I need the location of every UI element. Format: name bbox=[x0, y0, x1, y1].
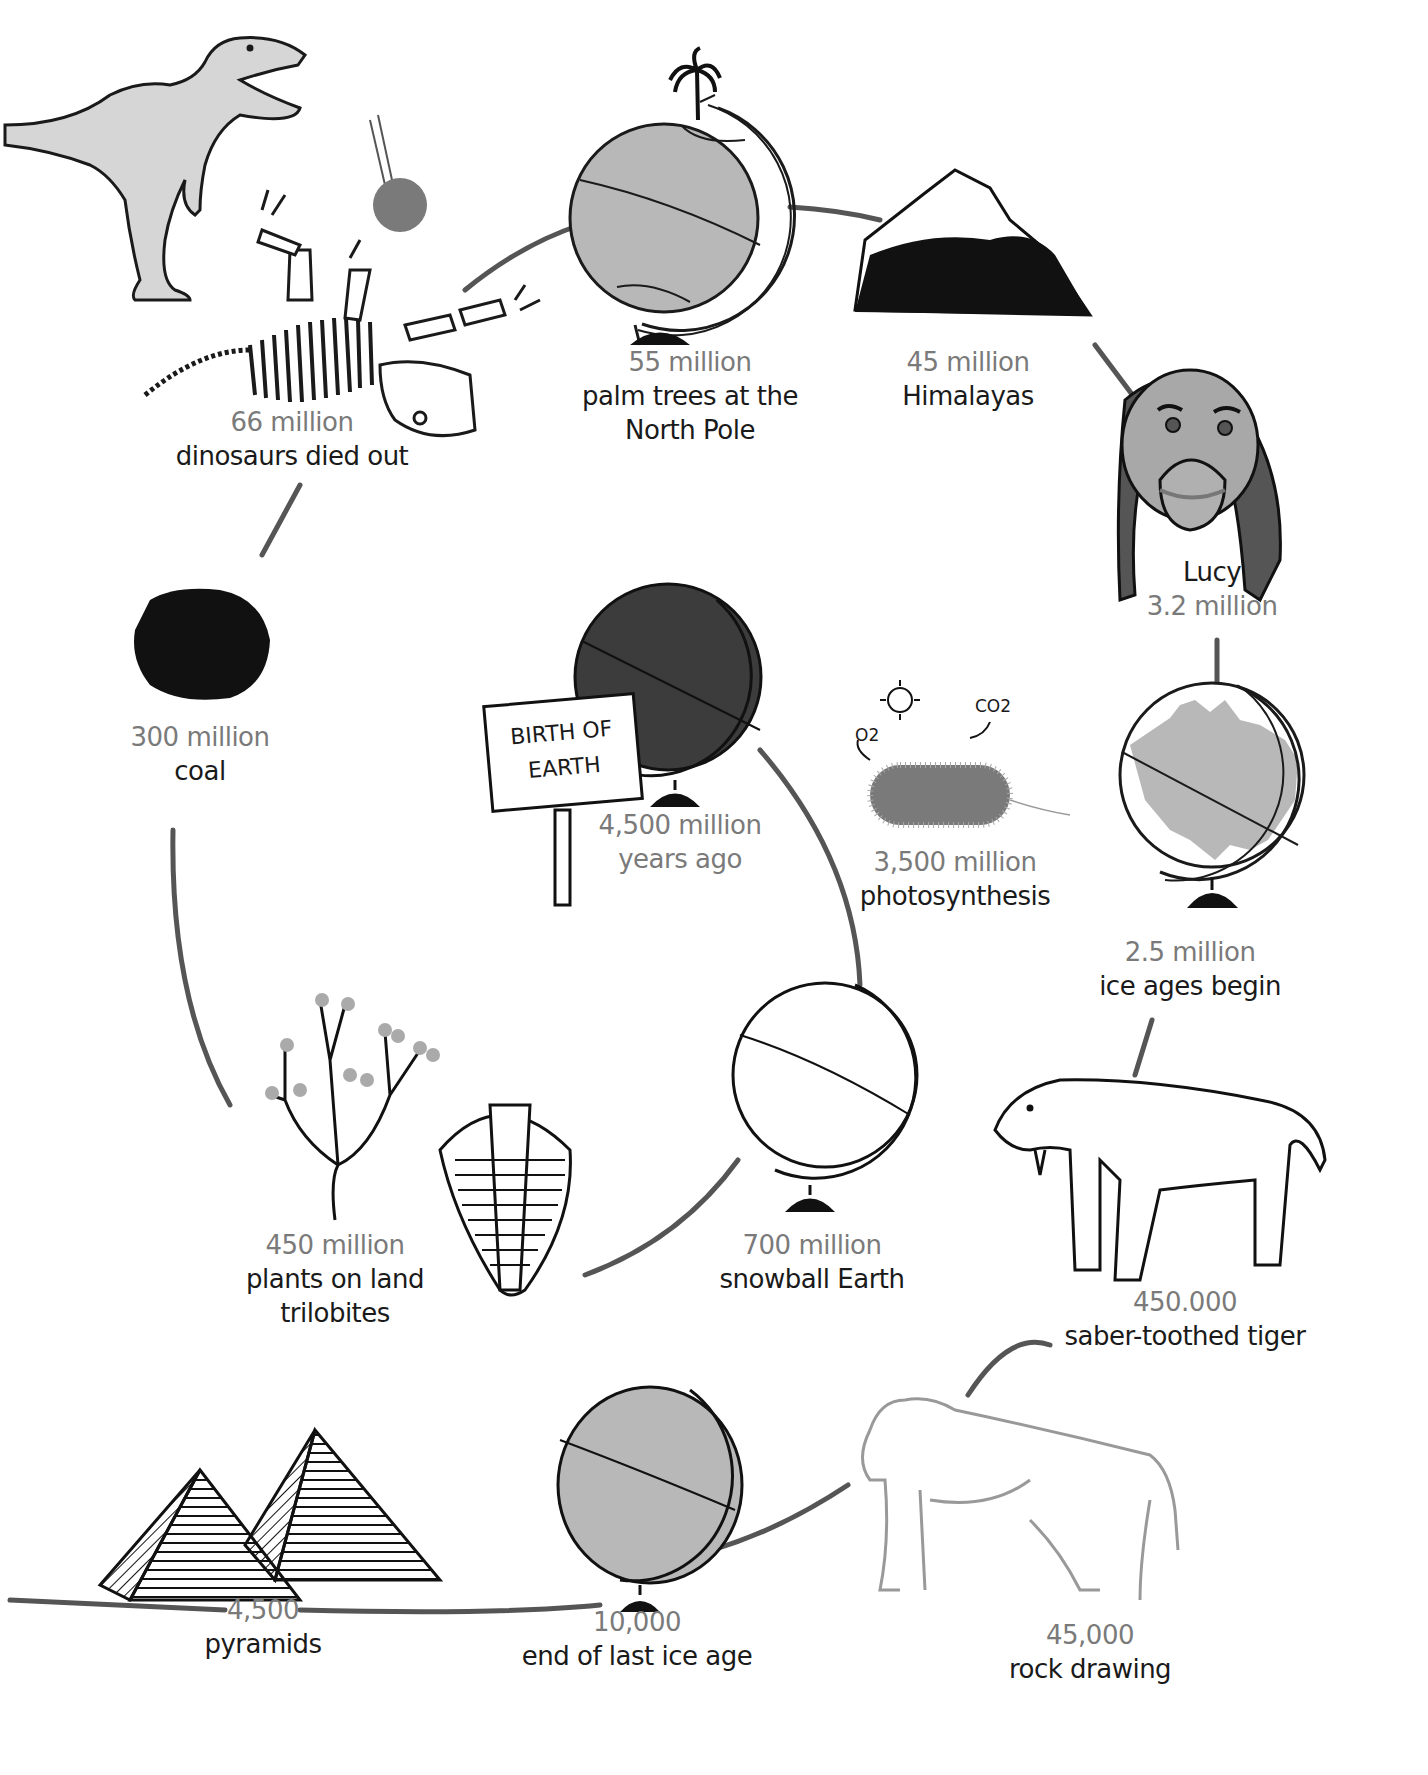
event-label-photosynthesis: 3,500 million photosynthesis bbox=[860, 845, 1050, 913]
event-date: 300 million bbox=[131, 720, 270, 754]
event-label-himalayas: 45 million Himalayas bbox=[902, 345, 1034, 413]
event-date: 45,000 bbox=[1009, 1618, 1171, 1652]
event-date-2: years ago bbox=[599, 842, 762, 876]
pyramids-icon bbox=[100, 1430, 440, 1600]
event-description: plants on land bbox=[246, 1262, 424, 1296]
event-label-rock-drawing: 45,000 rock drawing bbox=[1009, 1618, 1171, 1686]
saber-toothed-tiger-icon bbox=[995, 1080, 1325, 1280]
event-label-lucy: Lucy 3.2 million bbox=[1147, 555, 1278, 623]
event-label-plants-trilobites: 450 million plants on land trilobites bbox=[246, 1228, 424, 1330]
event-description: photosynthesis bbox=[860, 879, 1050, 913]
event-description: Himalayas bbox=[902, 379, 1034, 413]
snowball-earth-globe-icon bbox=[733, 983, 917, 1212]
event-date: 3,500 million bbox=[860, 845, 1050, 879]
event-description: dinosaurs died out bbox=[176, 439, 409, 473]
event-description-2: North Pole bbox=[582, 413, 798, 447]
dinosaur-skeleton-icon bbox=[145, 190, 540, 436]
event-date: 3.2 million bbox=[1147, 589, 1278, 623]
event-description: Lucy bbox=[1147, 555, 1278, 589]
event-date: 4,500 million bbox=[599, 808, 762, 842]
trilobite-icon bbox=[440, 1105, 570, 1295]
event-date: 2.5 million bbox=[1099, 935, 1281, 969]
event-label-ice-ages: 2.5 million ice ages begin bbox=[1099, 935, 1281, 1003]
event-description: coal bbox=[131, 754, 270, 788]
photosynthesis-bacterium-icon: O2 CO2 bbox=[855, 680, 1070, 825]
event-description: saber-toothed tiger bbox=[1065, 1319, 1306, 1353]
event-label-snowball-earth: 700 million snowball Earth bbox=[719, 1228, 904, 1296]
svg-text:CO2: CO2 bbox=[975, 696, 1011, 716]
event-description: end of last ice age bbox=[522, 1639, 752, 1673]
meteor-icon bbox=[370, 115, 427, 232]
event-description: pyramids bbox=[204, 1627, 321, 1661]
globe-palm-tree-icon bbox=[570, 48, 794, 345]
event-label-dinosaurs: 66 million dinosaurs died out bbox=[176, 405, 409, 473]
event-description: palm trees at the bbox=[582, 379, 798, 413]
event-date: 10,000 bbox=[522, 1605, 752, 1639]
event-label-saber-toothed-tiger: 450.000 saber-toothed tiger bbox=[1065, 1285, 1306, 1353]
event-date: 450 million bbox=[246, 1228, 424, 1262]
mountain-icon bbox=[855, 170, 1090, 315]
event-description: snowball Earth bbox=[719, 1262, 904, 1296]
event-date: 700 million bbox=[719, 1228, 904, 1262]
end-of-ice-age-globe-icon bbox=[558, 1387, 742, 1612]
event-description: rock drawing bbox=[1009, 1652, 1171, 1686]
event-date: 55 million bbox=[582, 345, 798, 379]
svg-text:O2: O2 bbox=[855, 725, 879, 745]
coal-icon bbox=[134, 589, 270, 700]
event-label-end-of-ice-age: 10,000 end of last ice age bbox=[522, 1605, 752, 1673]
event-label-coal: 300 million coal bbox=[131, 720, 270, 788]
event-label-pyramids: 4,500 pyramids bbox=[204, 1593, 321, 1661]
cave-drawing-animal-icon bbox=[863, 1399, 1179, 1600]
event-date: 45 million bbox=[902, 345, 1034, 379]
event-label-birth-of-earth: 4,500 million years ago bbox=[599, 808, 762, 876]
timeline-illustration: BIRTH OF EARTH O2 CO2 bbox=[0, 0, 1428, 1775]
t-rex-icon bbox=[5, 38, 305, 300]
event-date: 4,500 bbox=[204, 1593, 321, 1627]
event-description-2: trilobites bbox=[246, 1296, 424, 1330]
event-date: 450.000 bbox=[1065, 1285, 1306, 1319]
event-description: ice ages begin bbox=[1099, 969, 1281, 1003]
ice-age-globe-icon bbox=[1120, 683, 1304, 908]
event-date: 66 million bbox=[176, 405, 409, 439]
early-plant-icon bbox=[265, 993, 440, 1220]
event-label-palm-trees: 55 million palm trees at the North Pole bbox=[582, 345, 798, 447]
